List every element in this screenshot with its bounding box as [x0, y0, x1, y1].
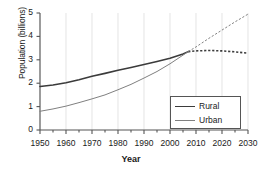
y-tick-label: 3 [17, 54, 33, 64]
series-line-urban [40, 52, 188, 112]
x-tick-label: 2030 [233, 138, 262, 148]
chart-legend: Rural Urban [170, 96, 241, 129]
y-tick-label: 1 [17, 101, 33, 111]
y-tick-label: 4 [17, 30, 33, 40]
legend-item-urban: Urban [175, 113, 222, 127]
legend-line-rural-icon [175, 106, 195, 107]
x-axis-title: Year [0, 154, 262, 164]
y-tick-label: 0 [17, 124, 33, 134]
series-projection-urban [188, 14, 248, 51]
y-tick-label: 2 [17, 77, 33, 87]
legend-line-urban-icon [175, 120, 195, 121]
legend-item-rural: Rural [175, 99, 219, 113]
y-tick-label: 5 [17, 7, 33, 17]
population-line-chart: Population (billions) Year 012345 195019… [0, 0, 262, 173]
legend-label-urban: Urban [199, 115, 222, 125]
series-line-rural [40, 52, 188, 87]
legend-label-rural: Rural [199, 101, 219, 111]
series-projection-rural [188, 50, 248, 53]
